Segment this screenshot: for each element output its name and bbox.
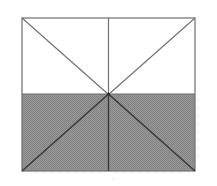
diagram-canvas [0, 0, 217, 186]
center-point [107, 93, 110, 96]
caption-mark: – [100, 176, 128, 182]
